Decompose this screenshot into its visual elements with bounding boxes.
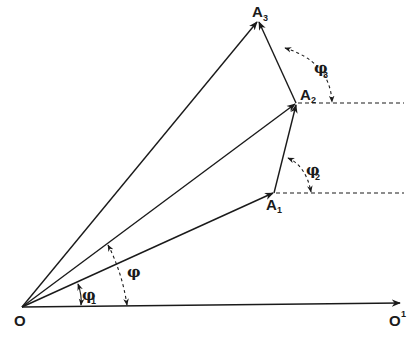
label-a2-main: A	[300, 86, 311, 103]
label-phi2: φ 2	[306, 161, 320, 182]
label-a1-main: A	[266, 196, 277, 213]
label-a3-main: A	[252, 3, 263, 20]
vector-o-a2	[22, 104, 295, 307]
label-a1-sub: 1	[277, 205, 282, 215]
angle-arc-phi	[108, 245, 127, 305]
label-phi3: φ 3	[314, 59, 328, 80]
angle-arc-phi1	[78, 284, 81, 305]
label-a1: A 1	[266, 196, 282, 215]
label-phi3-sub: 3	[323, 70, 328, 80]
vector-o-a1	[22, 193, 273, 307]
label-o-prime: O 1	[389, 309, 406, 329]
vector-a2-a3	[259, 22, 296, 103]
label-o-prime-main: O	[389, 312, 401, 329]
label-o: O	[14, 312, 26, 329]
label-a3-sub: 3	[263, 13, 268, 23]
vector-a1-a2	[274, 105, 296, 193]
vector-diagram: O O 1 A 1 A 2 A 3 φ φ 1 φ 2 φ 3	[0, 0, 417, 338]
label-phi: φ	[127, 263, 141, 281]
label-phi2-sub: 2	[315, 172, 320, 182]
label-phi1: φ 1	[82, 286, 96, 306]
label-a3: A 3	[252, 3, 268, 23]
label-o-prime-sup: 1	[401, 309, 406, 319]
label-a2: A 2	[300, 86, 316, 105]
label-a2-sub: 2	[311, 95, 316, 105]
label-phi1-sub: 1	[91, 296, 96, 306]
axis-o-o1	[22, 303, 400, 307]
